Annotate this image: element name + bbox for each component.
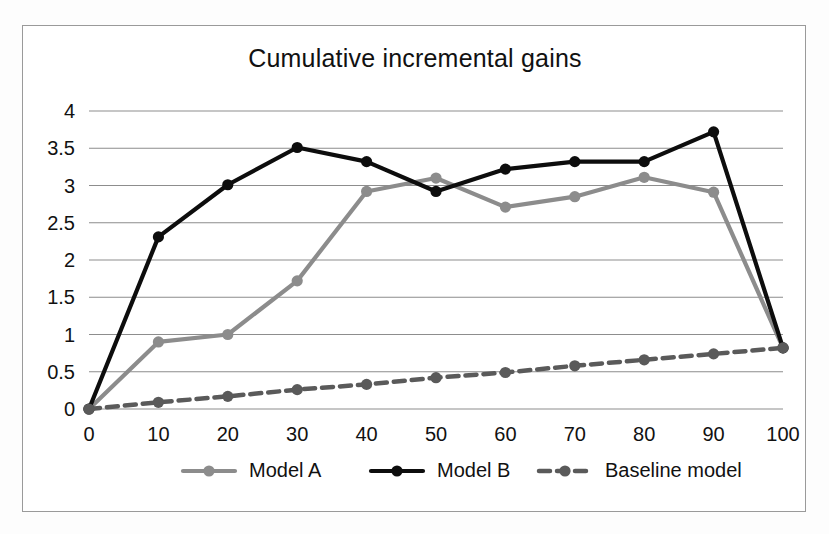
data-point-marker: [430, 372, 441, 383]
x-axis-tick-label: 90: [702, 423, 724, 445]
chart-figure: Cumulative incremental gains 00.511.522.…: [0, 0, 829, 534]
data-point-marker: [292, 275, 303, 286]
chart-plot-area: 00.511.522.533.54 0102030405060708090100…: [23, 26, 807, 513]
y-axis-tick-label: 0.5: [47, 361, 75, 383]
chart-frame-border: Cumulative incremental gains 00.511.522.…: [22, 25, 806, 512]
data-point-marker: [361, 186, 372, 197]
x-axis-tick-label: 30: [286, 423, 308, 445]
legend-item-1[interactable]: Model A: [183, 459, 322, 481]
y-axis-tick-label: 3: [64, 175, 75, 197]
legend-item-3[interactable]: Baseline model: [539, 459, 742, 481]
y-axis-tick-label: 1.5: [47, 286, 75, 308]
data-point-marker: [500, 367, 511, 378]
data-point-marker: [777, 342, 788, 353]
x-axis-tick-label: 0: [83, 423, 94, 445]
legend-marker: [203, 465, 214, 476]
data-point-marker: [639, 172, 650, 183]
y-axis-tick-label: 3.5: [47, 137, 75, 159]
x-axis-tick-label: 50: [425, 423, 447, 445]
data-point-marker: [153, 336, 164, 347]
data-point-marker: [222, 391, 233, 402]
y-axis-tick-label: 2: [64, 249, 75, 271]
legend-marker: [559, 465, 570, 476]
data-point-marker: [500, 164, 511, 175]
y-axis-tick-label: 2.5: [47, 212, 75, 234]
data-point-marker: [639, 354, 650, 365]
data-point-marker: [708, 348, 719, 359]
x-axis-tick-label: 100: [766, 423, 799, 445]
legend-item-2[interactable]: Model B: [371, 459, 510, 481]
data-point-marker: [569, 156, 580, 167]
data-point-marker: [153, 231, 164, 242]
x-axis-tick-label: 10: [147, 423, 169, 445]
data-point-marker: [708, 126, 719, 137]
data-point-marker: [430, 172, 441, 183]
gridlines-group: [89, 111, 783, 409]
data-point-marker: [292, 384, 303, 395]
data-point-marker: [222, 179, 233, 190]
x-axis-tick-label: 20: [217, 423, 239, 445]
x-axis-tick-labels: 0102030405060708090100: [83, 423, 799, 445]
data-point-marker: [639, 156, 650, 167]
data-point-marker: [708, 187, 719, 198]
y-axis-tick-label: 1: [64, 324, 75, 346]
data-point-marker: [361, 156, 372, 167]
legend-label: Model B: [437, 459, 510, 481]
legend-label: Baseline model: [605, 459, 742, 481]
y-axis-tick-label: 0: [64, 398, 75, 420]
data-point-marker: [361, 379, 372, 390]
x-axis-tick-label: 70: [564, 423, 586, 445]
data-point-marker: [292, 142, 303, 153]
data-point-marker: [153, 397, 164, 408]
data-point-marker: [83, 403, 94, 414]
x-axis-tick-label: 40: [355, 423, 377, 445]
chart-legend: Model AModel BBaseline model: [183, 459, 742, 481]
data-point-marker: [430, 186, 441, 197]
data-point-marker: [500, 202, 511, 213]
data-point-marker: [569, 191, 580, 202]
data-point-marker: [569, 360, 580, 371]
legend-label: Model A: [249, 459, 322, 481]
x-axis-tick-label: 60: [494, 423, 516, 445]
x-axis-tick-label: 80: [633, 423, 655, 445]
data-point-marker: [222, 329, 233, 340]
data-series-3: [83, 342, 788, 414]
y-axis-tick-labels: 00.511.522.533.54: [47, 100, 75, 420]
y-axis-tick-label: 4: [64, 100, 75, 122]
legend-marker: [391, 465, 402, 476]
